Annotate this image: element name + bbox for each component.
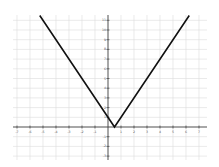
x-tick-label: 6 [185,130,187,134]
x-tick-label: -1 [93,130,96,134]
x-tick-label: -5 [41,130,44,134]
y-tick-label: 10 [102,28,106,32]
y-tick-label: 5 [104,77,106,81]
y-tick-label: -3 [103,154,106,158]
x-tick-label: 5 [172,130,174,134]
y-tick-label: 7 [104,57,106,61]
x-tick-label: 3 [146,130,148,134]
y-tick-label: 4 [104,86,106,90]
grid-lines [13,15,207,160]
y-tick-label: 8 [104,47,106,51]
x-tick-label: -3 [67,130,70,134]
x-tick-label: 4 [159,130,161,134]
y-tick-label: 9 [104,38,106,42]
absolute-value-graph: -7-6-5-4-3-2-11234567 1110987654321-1-2-… [0,0,219,167]
y-tick-label: -1 [103,135,106,139]
y-tick-label: 3 [104,96,106,100]
v-shaped-curve [40,15,190,127]
x-tick-label: 2 [133,130,135,134]
x-tick-label: -4 [54,130,57,134]
x-tick-label: 1 [120,130,122,134]
x-tick-label: 7 [198,130,200,134]
axes [13,15,207,160]
y-tick-label: 2 [104,106,106,110]
y-tick-label: -2 [103,144,106,148]
x-tick-label: -2 [80,130,83,134]
x-tick-label: -7 [15,130,18,134]
y-tick-label: 6 [104,67,106,71]
x-tick-label: -6 [28,130,31,134]
y-tick-label: 1 [104,115,106,119]
y-tick-label: 11 [102,18,106,22]
